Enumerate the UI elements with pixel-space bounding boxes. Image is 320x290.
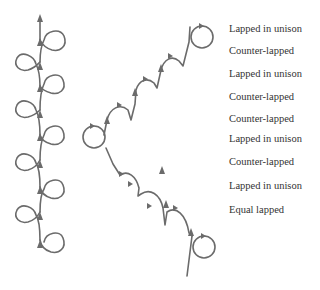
label-counter-lapped-2: Counter-lapped [229, 91, 294, 102]
label-lapped-in-unison-3: Lapped in unison [229, 133, 302, 144]
lapping-diagram [0, 0, 320, 290]
label-lapped-in-unison-1: Lapped in unison [229, 23, 302, 34]
label-counter-lapped-4: Counter-lapped [229, 156, 294, 167]
label-counter-lapped-3: Counter-lapped [229, 113, 294, 124]
label-counter-lapped-1: Counter-lapped [229, 45, 294, 56]
label-equal-lapped: Equal lapped [229, 204, 284, 215]
label-lapped-in-unison-2: Lapped in unison [229, 68, 302, 79]
zigzag-loop-chain [83, 23, 215, 276]
label-lapped-in-unison-4: Lapped in unison [229, 180, 302, 191]
left-loop-chain [16, 14, 65, 252]
